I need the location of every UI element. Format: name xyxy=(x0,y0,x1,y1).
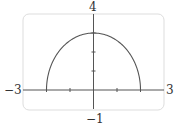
x-min-label: −3 xyxy=(4,83,22,97)
y-max-label: 4 xyxy=(89,0,97,14)
chart: −3 3 4 −1 xyxy=(0,0,179,139)
x-max-label: 3 xyxy=(166,83,174,97)
y-min-label: −1 xyxy=(86,112,104,126)
